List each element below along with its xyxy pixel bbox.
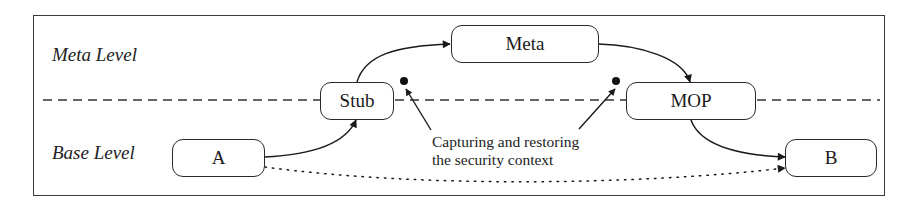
security-context-point-left xyxy=(400,77,408,85)
edge-mop-to-b xyxy=(691,120,785,157)
node-a-label: A xyxy=(212,147,226,169)
annotation-line-2: the security context xyxy=(432,151,579,169)
node-b-label: B xyxy=(825,147,838,169)
node-meta: Meta xyxy=(451,25,599,63)
meta-level-label: Meta Level xyxy=(52,44,137,66)
node-mop-label: MOP xyxy=(670,90,711,112)
annotation-line-1: Capturing and restoring xyxy=(432,133,579,151)
node-stub: Stub xyxy=(320,82,394,120)
edge-a-to-b-dotted xyxy=(265,167,785,182)
annotation-pointer-left xyxy=(406,89,431,130)
node-stub-label: Stub xyxy=(340,90,375,112)
edge-a-to-stub xyxy=(264,120,356,157)
node-meta-label: Meta xyxy=(505,33,544,55)
edge-stub-to-meta xyxy=(357,44,450,82)
security-context-annotation: Capturing and restoring the security con… xyxy=(432,133,579,169)
annotation-pointer-right xyxy=(579,89,615,129)
edge-meta-to-mop xyxy=(598,44,690,82)
security-context-point-right xyxy=(612,77,620,85)
node-mop: MOP xyxy=(626,82,756,120)
node-a: A xyxy=(172,139,265,177)
node-b: B xyxy=(785,139,877,177)
base-level-label: Base Level xyxy=(52,142,135,164)
